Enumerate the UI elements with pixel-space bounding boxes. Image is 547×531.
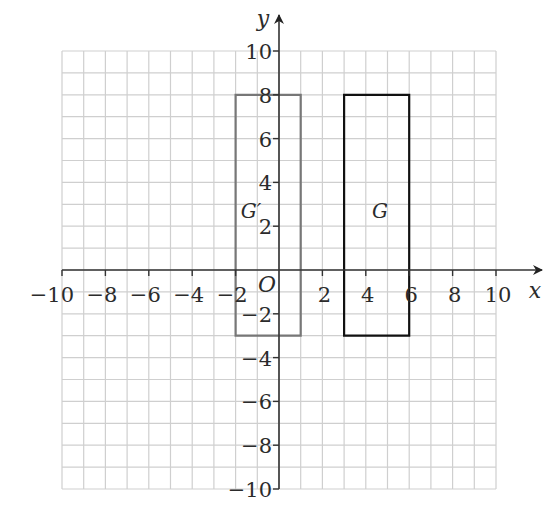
shape-label-g-prime: G′ (241, 199, 262, 223)
y-tick-label: −10 (228, 478, 272, 502)
y-tick-label: −4 (241, 347, 272, 371)
x-tick-label: −10 (30, 283, 74, 307)
y-tick-label: −8 (241, 434, 272, 458)
origin-label: O (258, 272, 276, 297)
coordinate-grid-diagram: −10−8−6−4−2246810108642−2−4−6−8−10xyOGG′ (0, 0, 547, 531)
x-tick-label: 4 (361, 283, 374, 307)
y-tick-label: −2 (241, 303, 272, 327)
x-tick-label: 10 (485, 283, 512, 307)
x-axis-label: x (529, 278, 542, 303)
y-tick-label: 4 (259, 171, 272, 195)
y-tick-label: 8 (259, 84, 272, 108)
labels-layer: −10−8−6−4−2246810108642−2−4−6−8−10xyOGG′ (30, 6, 542, 502)
y-axis-label: y (256, 6, 270, 31)
x-tick-label: −6 (130, 283, 161, 307)
y-tick-label: −6 (241, 390, 272, 414)
shape-label-g: G (372, 199, 388, 223)
y-tick-label: 10 (245, 40, 272, 64)
x-tick-label: −8 (86, 283, 117, 307)
axes (62, 15, 542, 489)
x-tick-label: 6 (405, 283, 418, 307)
y-tick-label: 6 (259, 128, 272, 152)
x-tick-label: −4 (173, 283, 204, 307)
x-tick-label: 2 (318, 283, 331, 307)
x-tick-label: 8 (448, 283, 461, 307)
